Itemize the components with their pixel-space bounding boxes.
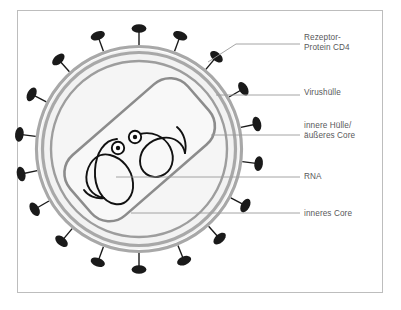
figure-root: Rezeptor- Protein CD4 Virushülle innere … <box>0 0 401 310</box>
spike-icon <box>241 154 263 171</box>
label-rna: RNA <box>304 172 322 182</box>
label-inner-envelope-outer-core: innere Hülle/ äußeres Core <box>304 121 355 142</box>
spike-icon <box>132 253 147 274</box>
spike-icon <box>14 126 36 143</box>
label-inner-core: inneres Core <box>304 209 352 219</box>
label-virus-envelope: Virushülle <box>304 88 341 98</box>
enzyme-dot-core <box>116 146 120 150</box>
label-receptor-protein-cd4: Rezeptor- Protein CD4 <box>304 33 350 54</box>
spike-icon <box>132 24 147 45</box>
enzyme-dot-core <box>133 135 137 139</box>
spike-icon <box>239 116 262 135</box>
spike-icon <box>15 163 38 182</box>
